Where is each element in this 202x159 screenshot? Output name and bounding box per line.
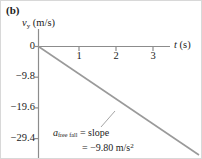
slope-value-text: = −9.80 m/s — [82, 142, 130, 153]
slope-value-exponent: 2 — [130, 142, 134, 150]
slope-annotation: afree fall = slope = −9.80 m/s2 — [53, 127, 134, 153]
annotation-leader-line — [101, 111, 115, 127]
slope-annotation-line-1: afree fall = slope — [53, 127, 134, 141]
acceleration-subscript: free fall — [58, 131, 77, 138]
slope-equals-text: = slope — [77, 127, 109, 138]
free-fall-velocity-graph-figure: (b) vy (m/s) t (s) 0 −9.8 −19.6 −29.4 1 … — [0, 0, 202, 159]
slope-annotation-line-2: = −9.80 m/s2 — [53, 141, 134, 154]
